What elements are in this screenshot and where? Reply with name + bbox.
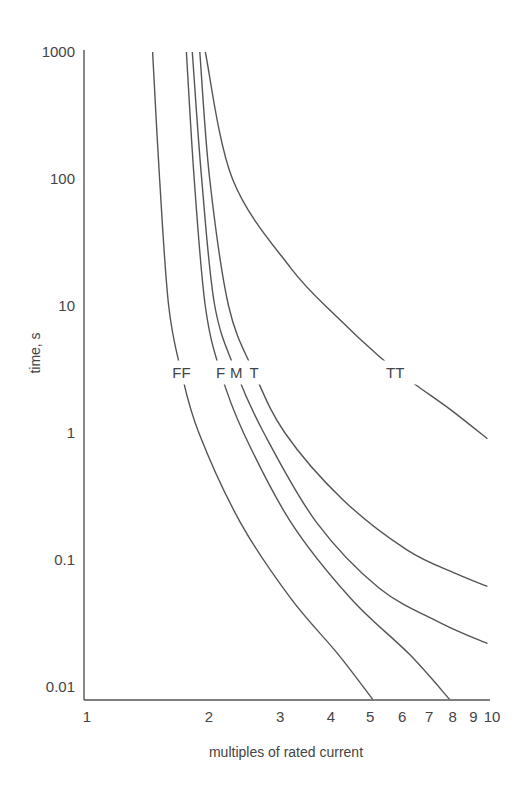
y-tick-label: 1 xyxy=(67,424,75,441)
curve-tt xyxy=(205,52,487,439)
x-tick-label: 1 xyxy=(83,708,91,725)
y-axis-tick-labels: 10001001010.10.01 xyxy=(42,43,75,695)
fuse-curves xyxy=(153,52,488,699)
y-tick-label: 1000 xyxy=(42,43,75,60)
x-tick-label: 2 xyxy=(205,708,213,725)
x-tick-label: 6 xyxy=(398,708,406,725)
x-axis-tick-labels: 12345678910 xyxy=(83,708,501,725)
curve-label-ff: FF xyxy=(172,364,190,381)
y-tick-label: 10 xyxy=(58,297,75,314)
curve-label-t: T xyxy=(249,364,258,381)
curve-label-tt: TT xyxy=(386,364,404,381)
fuse-time-current-chart: 10001001010.10.01 12345678910 FFFMTTT mu… xyxy=(0,0,532,792)
y-tick-label: 100 xyxy=(50,170,75,187)
curve-label-m: M xyxy=(230,364,243,381)
x-tick-label: 5 xyxy=(366,708,374,725)
curve-t xyxy=(200,52,488,586)
y-axis-title: time, s xyxy=(27,332,43,373)
x-tick-label: 8 xyxy=(449,708,457,725)
x-tick-label: 3 xyxy=(276,708,284,725)
x-tick-label: 4 xyxy=(327,708,335,725)
x-tick-label: 10 xyxy=(484,708,501,725)
curve-label-f: F xyxy=(216,364,225,381)
y-tick-label: 0.01 xyxy=(46,678,75,695)
y-tick-label: 0.1 xyxy=(54,551,75,568)
curve-m xyxy=(192,52,487,644)
x-tick-label: 9 xyxy=(469,708,477,725)
curve-labels: FFFMTTT xyxy=(172,364,404,381)
x-tick-label: 7 xyxy=(425,708,433,725)
curve-f xyxy=(186,52,449,699)
x-axis-title: multiples of rated current xyxy=(209,744,363,760)
